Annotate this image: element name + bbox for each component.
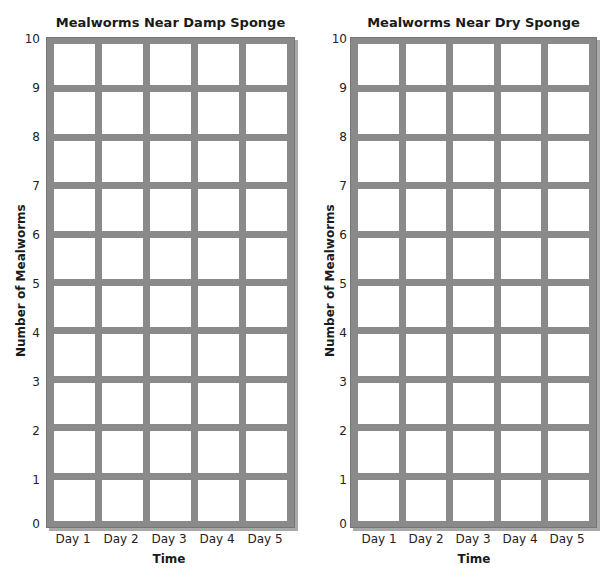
- x-tick-day-5: Day 5: [542, 532, 592, 546]
- y-tick: 8: [20, 130, 40, 144]
- chart-dry-sponge: Mealworms Near Dry Sponge Number of Meal…: [304, 0, 600, 583]
- chart-title: Mealworms Near Dry Sponge: [350, 15, 597, 30]
- y-tick: 4: [20, 326, 40, 340]
- x-axis-label: Time: [139, 552, 199, 566]
- x-tick-day-1: Day 1: [354, 532, 404, 546]
- x-tick-day-2: Day 2: [401, 532, 451, 546]
- y-tick: 2: [327, 424, 347, 438]
- chart-title: Mealworms Near Damp Sponge: [46, 15, 295, 30]
- y-tick: 5: [327, 277, 347, 291]
- x-tick-day-5: Day 5: [240, 532, 290, 546]
- y-tick: 8: [327, 130, 347, 144]
- x-tick-day-2: Day 2: [96, 532, 146, 546]
- y-tick: 6: [20, 228, 40, 242]
- x-axis-label: Time: [444, 552, 504, 566]
- x-tick-day-3: Day 3: [144, 532, 194, 546]
- y-tick: 6: [327, 228, 347, 242]
- x-tick-day-4: Day 4: [192, 532, 242, 546]
- x-tick-day-4: Day 4: [495, 532, 545, 546]
- y-tick: 0: [20, 517, 40, 531]
- y-tick: 5: [20, 277, 40, 291]
- y-tick: 3: [20, 375, 40, 389]
- y-tick: 1: [20, 473, 40, 487]
- chart-damp-sponge: Mealworms Near Damp Sponge Number of Mea…: [0, 0, 300, 583]
- y-tick: 7: [327, 179, 347, 193]
- y-tick: 7: [20, 179, 40, 193]
- grid-frame: [46, 37, 295, 528]
- y-tick: 1: [327, 473, 347, 487]
- y-tick: 3: [327, 375, 347, 389]
- plot-grid: [54, 44, 287, 521]
- y-tick: 9: [327, 81, 347, 95]
- plot-grid: [358, 44, 589, 521]
- x-tick-day-3: Day 3: [448, 532, 498, 546]
- y-tick: 4: [327, 326, 347, 340]
- y-tick: 10: [327, 32, 347, 46]
- y-tick: 0: [327, 517, 347, 531]
- x-tick-day-1: Day 1: [48, 532, 98, 546]
- y-tick: 9: [20, 81, 40, 95]
- grid-frame: [350, 37, 597, 528]
- y-tick: 2: [20, 424, 40, 438]
- y-tick: 10: [20, 32, 40, 46]
